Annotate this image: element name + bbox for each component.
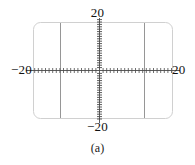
figure-caption: (a) — [0, 142, 195, 154]
y-min-label: −20 — [0, 120, 195, 133]
x-min-label: −20 — [2, 63, 32, 76]
x-max-label: 20 — [172, 63, 195, 76]
figure-container: 20 −20 −20 20 (a) — [0, 0, 195, 165]
y-max-label: 20 — [0, 6, 195, 19]
